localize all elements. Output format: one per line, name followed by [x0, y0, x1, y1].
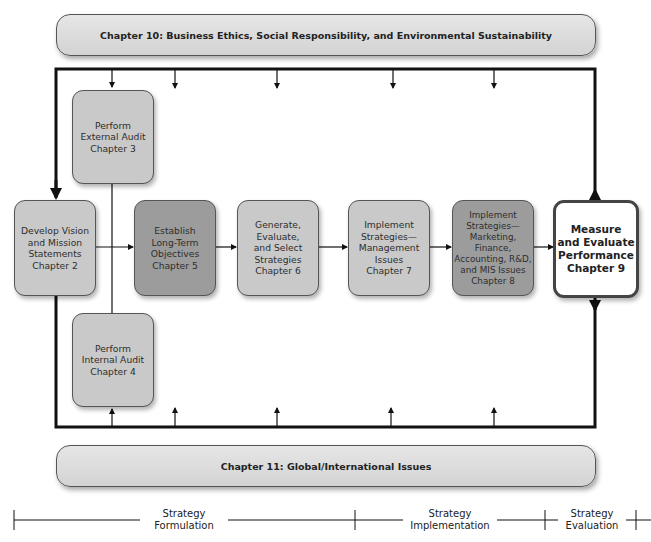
node-external-audit-label: Perform External Audit Chapter 3 [80, 120, 145, 155]
phase-strategy-evaluation: Strategy Evaluation [558, 508, 626, 532]
banner-chapter-11-label: Chapter 11: Global/International Issues [221, 461, 432, 472]
banner-chapter-10-label: Chapter 10: Business Ethics, Social Resp… [100, 30, 552, 41]
node-measure-performance: Measure and Evaluate Performance Chapter… [553, 200, 639, 298]
node-implement-management-label: Implement Strategies— Management Issues … [359, 219, 420, 277]
phase-strategy-implementation: Strategy Implementation [403, 508, 497, 532]
banner-chapter-11-global: Chapter 11: Global/International Issues [56, 445, 596, 487]
phase-strategy-formulation: Strategy Formulation [140, 508, 228, 532]
node-develop-vision-label: Develop Vision and Mission Statements Ch… [21, 225, 89, 271]
node-develop-vision: Develop Vision and Mission Statements Ch… [14, 200, 96, 296]
node-external-audit: Perform External Audit Chapter 3 [72, 90, 154, 184]
node-implement-marketing-label: Implement Strategies— Marketing, Finance… [454, 210, 531, 287]
banner-chapter-10-ethics: Chapter 10: Business Ethics, Social Resp… [56, 14, 596, 56]
node-long-term-objectives-label: Establish Long-Term Objectives Chapter 5 [151, 225, 199, 271]
node-internal-audit-label: Perform Internal Audit Chapter 4 [82, 343, 144, 378]
node-generate-strategies-label: Generate, Evaluate, and Select Strategie… [254, 219, 303, 277]
node-implement-management: Implement Strategies— Management Issues … [348, 200, 430, 296]
node-implement-marketing: Implement Strategies— Marketing, Finance… [452, 200, 534, 296]
node-internal-audit: Perform Internal Audit Chapter 4 [72, 313, 154, 407]
node-long-term-objectives: Establish Long-Term Objectives Chapter 5 [134, 200, 216, 296]
node-measure-performance-label: Measure and Evaluate Performance Chapter… [557, 223, 634, 275]
node-generate-strategies: Generate, Evaluate, and Select Strategie… [237, 200, 319, 296]
